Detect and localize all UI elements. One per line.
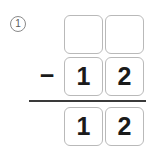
subtraction-worksheet-problem: 1 − 1 2 1 2 [0, 0, 148, 153]
subtrahend-tens-box[interactable]: 1 [64, 57, 103, 96]
minuend-tens-box[interactable] [64, 15, 103, 54]
subtrahend-ones-box[interactable]: 2 [105, 57, 144, 96]
minuend-row [64, 15, 146, 54]
problem-number-badge: 1 [10, 16, 26, 32]
difference-ones-box[interactable]: 2 [105, 107, 144, 146]
minuend-ones-box[interactable] [105, 15, 144, 54]
minus-operator: − [39, 57, 55, 96]
subtrahend-row: 1 2 [64, 57, 146, 96]
difference-tens-box[interactable]: 1 [64, 107, 103, 146]
answer-rule-line [29, 100, 146, 102]
difference-row: 1 2 [64, 107, 146, 146]
